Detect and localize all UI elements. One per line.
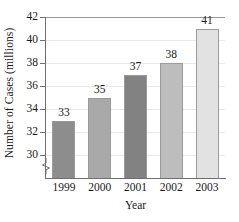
y-axis-tick-label: 42 — [16, 11, 38, 23]
y-axis-line — [45, 17, 46, 178]
bar — [196, 29, 219, 179]
bar-value-label: 35 — [80, 84, 120, 96]
y-axis-tick-label: 38 — [16, 57, 38, 69]
y-axis-title-label: Number of Cases (millions) — [3, 27, 15, 158]
x-axis-line — [45, 178, 226, 179]
bar-value-label: 37 — [116, 61, 156, 73]
y-axis-tick — [40, 17, 45, 18]
bar — [124, 75, 147, 179]
plot-area — [46, 17, 225, 178]
y-axis-tick — [40, 86, 45, 87]
bar-chart: Number of Cases (millions) Year 30323436… — [0, 0, 239, 222]
y-axis-tick-label: 34 — [16, 103, 38, 115]
y-axis-tick-label: 36 — [16, 80, 38, 92]
x-axis-title: Year — [46, 200, 225, 212]
bar — [88, 98, 111, 179]
x-axis-tick-label: 2003 — [185, 182, 229, 194]
bar-value-label: 41 — [187, 15, 227, 27]
y-axis-tick — [40, 155, 45, 156]
bar-value-label: 38 — [151, 49, 191, 61]
y-axis-tick — [40, 63, 45, 64]
axis-break-icon — [41, 158, 51, 174]
y-axis-tick-label: 30 — [16, 149, 38, 161]
bar — [160, 63, 183, 178]
y-axis-tick-label: 40 — [16, 34, 38, 46]
bar-value-label: 33 — [44, 107, 84, 119]
y-axis-tick — [40, 40, 45, 41]
y-axis-tick-label: 32 — [16, 126, 38, 138]
bar — [52, 121, 75, 179]
y-axis-tick — [40, 132, 45, 133]
